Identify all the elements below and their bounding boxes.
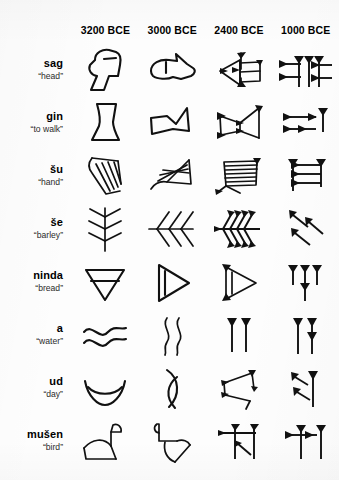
- sign-a-3200-bce: [72, 308, 139, 361]
- sign-gin-2400-bce: [206, 96, 273, 149]
- sign-a-3000-bce: [139, 308, 206, 361]
- sign-musen-2400-bce: [206, 414, 273, 467]
- english-gloss: “water”: [0, 336, 63, 346]
- sumerian-word: ninda: [0, 269, 63, 282]
- table-header: 3200 BCE 3000 BCE 2400 BCE 1000 BCE: [0, 0, 339, 43]
- english-gloss: “head”: [0, 71, 63, 81]
- row-label-ninda: ninda “bread”: [0, 255, 72, 308]
- sign-ninda-1000-bce: [272, 255, 339, 308]
- english-gloss: “barley”: [0, 230, 63, 240]
- english-gloss: “bird”: [0, 442, 63, 452]
- sign-su-2400-bce: [206, 149, 273, 202]
- english-gloss: “to walk”: [0, 124, 63, 134]
- sign-se-3000-bce: [139, 202, 206, 255]
- cuneiform-evolution-table: 3200 BCE 3000 BCE 2400 BCE 1000 BCE sag …: [0, 0, 339, 467]
- sumerian-word: a: [0, 322, 63, 335]
- sign-a-2400-bce: [206, 308, 273, 361]
- sign-musen-3200-bce: [72, 414, 139, 467]
- table-row: a “water”: [0, 308, 339, 361]
- sign-ninda-3000-bce: [139, 255, 206, 308]
- sign-gin-3200-bce: [72, 96, 139, 149]
- row-label-sag: sag “head”: [0, 43, 72, 96]
- table-row: sag “head”: [0, 43, 339, 96]
- table-row: še “barley”: [0, 202, 339, 255]
- sumerian-word: gin: [0, 110, 63, 123]
- row-label-gin: gin “to walk”: [0, 96, 72, 149]
- row-label-ud: ud “day”: [0, 361, 72, 414]
- sign-musen-3000-bce: [139, 414, 206, 467]
- sign-sag-3200-bce: [72, 43, 139, 96]
- sign-su-3000-bce: [139, 149, 206, 202]
- sign-sag-3000-bce: [139, 43, 206, 96]
- sign-sag-1000-bce: [272, 43, 339, 96]
- sign-ud-2400-bce: [206, 361, 273, 414]
- sumerian-word: še: [0, 216, 63, 229]
- sign-musen-1000-bce: [272, 414, 339, 467]
- table-row: ud “day”: [0, 361, 339, 414]
- sign-gin-1000-bce: [272, 96, 339, 149]
- english-gloss: “day”: [0, 389, 63, 399]
- sign-su-1000-bce: [272, 149, 339, 202]
- table-row: ninda “bread”: [0, 255, 339, 308]
- sumerian-word: sag: [0, 57, 63, 70]
- column-header-3000-bce: 3000 BCE: [139, 0, 206, 43]
- column-header-2400-bce: 2400 BCE: [206, 0, 273, 43]
- sign-se-1000-bce: [272, 202, 339, 255]
- english-gloss: “bread”: [0, 283, 63, 293]
- table-row: mušen “bird”: [0, 414, 339, 467]
- column-header-3200-bce: 3200 BCE: [72, 0, 139, 43]
- column-header-1000-bce: 1000 BCE: [272, 0, 339, 43]
- row-label-su: šu “hand”: [0, 149, 72, 202]
- english-gloss: “hand”: [0, 177, 63, 187]
- table-body: sag “head”: [0, 43, 339, 467]
- table-row: šu “hand”: [0, 149, 339, 202]
- sign-gin-3000-bce: [139, 96, 206, 149]
- sumerian-word: šu: [0, 163, 63, 176]
- sign-sag-2400-bce: [206, 43, 273, 96]
- sign-se-2400-bce: [206, 202, 273, 255]
- sign-ud-1000-bce: [272, 361, 339, 414]
- sign-su-3200-bce: [72, 149, 139, 202]
- header-corner-empty: [0, 0, 72, 43]
- row-label-musen: mušen “bird”: [0, 414, 72, 467]
- row-label-se: še “barley”: [0, 202, 72, 255]
- sign-a-1000-bce: [272, 308, 339, 361]
- table-row: gin “to walk”: [0, 96, 339, 149]
- sign-se-3200-bce: [72, 202, 139, 255]
- sign-ud-3000-bce: [139, 361, 206, 414]
- sign-ninda-2400-bce: [206, 255, 273, 308]
- row-label-a: a “water”: [0, 308, 72, 361]
- sumerian-word: ud: [0, 375, 63, 388]
- sign-ud-3200-bce: [72, 361, 139, 414]
- sign-ninda-3200-bce: [72, 255, 139, 308]
- sumerian-word: mušen: [0, 428, 63, 441]
